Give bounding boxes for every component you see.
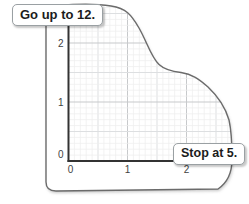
region-graph-svg: 012012 [0, 0, 249, 204]
callout-go-up-to-12: Go up to 12. [12, 4, 103, 26]
callout-stop-at-5: Stop at 5. [173, 143, 245, 165]
x-tick-label: 0 [68, 164, 74, 175]
x-tick-label: 1 [125, 164, 131, 175]
y-tick-label: 2 [58, 38, 64, 49]
x-tick-label: 2 [184, 164, 190, 175]
figure-canvas: 012012 Go up to 12. Stop at 5. [0, 0, 249, 204]
y-tick-label: 0 [58, 149, 64, 160]
y-tick-label: 1 [58, 97, 64, 108]
